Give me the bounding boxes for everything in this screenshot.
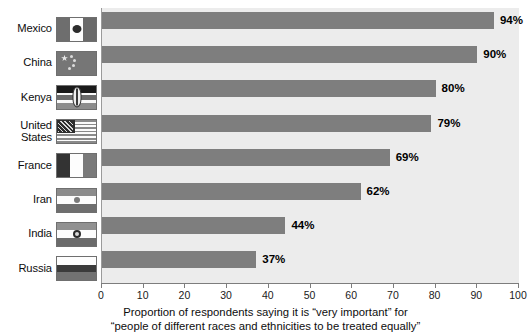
x-axis-tick-label: 90 bbox=[470, 289, 482, 301]
x-axis-tick-label: 10 bbox=[137, 289, 149, 301]
x-axis-tick bbox=[184, 283, 185, 288]
x-axis-caption: Proportion of respondents saying it is “… bbox=[0, 305, 531, 333]
x-axis-tick-label: 50 bbox=[304, 289, 316, 301]
x-axis-tick-label: 20 bbox=[179, 289, 191, 301]
bar-value-label: 62% bbox=[367, 183, 390, 200]
x-axis-tick bbox=[393, 283, 394, 288]
x-axis-tick bbox=[310, 283, 311, 288]
india-flag bbox=[56, 222, 97, 247]
x-axis-tick-label: 80 bbox=[429, 289, 441, 301]
category-label: Mexico bbox=[17, 23, 52, 35]
kenya-flag bbox=[56, 85, 97, 110]
bar bbox=[102, 46, 477, 63]
bar bbox=[102, 251, 256, 268]
bar-value-label: 80% bbox=[442, 80, 465, 97]
x-axis-tick-label: 30 bbox=[220, 289, 232, 301]
bar-value-label: 90% bbox=[483, 46, 506, 63]
x-axis-tick bbox=[143, 283, 144, 288]
category-label: India bbox=[28, 228, 52, 240]
category-label: France bbox=[18, 160, 52, 172]
caption-line-2: “people of different races and ethniciti… bbox=[0, 319, 531, 333]
x-axis-tick-label: 40 bbox=[262, 289, 274, 301]
category-row: United States bbox=[0, 119, 97, 145]
category-row: Iran bbox=[0, 187, 97, 213]
iran-flag bbox=[56, 188, 97, 213]
x-axis-tick-label: 100 bbox=[509, 289, 527, 301]
x-axis-tick bbox=[518, 283, 519, 288]
russia-flag bbox=[56, 256, 97, 281]
bar-value-label: 94% bbox=[500, 12, 523, 29]
category-label: China bbox=[23, 57, 52, 69]
category-row: Russia bbox=[0, 255, 97, 281]
mexico-flag bbox=[56, 17, 97, 42]
category-row: Kenya bbox=[0, 84, 97, 110]
x-axis-tick-label: 0 bbox=[98, 289, 104, 301]
united-states-flag bbox=[56, 119, 97, 144]
category-label: United States bbox=[20, 120, 52, 143]
plot-area: 94%90%80%79%69%62%44%37% bbox=[101, 8, 519, 283]
caption-line-1: Proportion of respondents saying it is “… bbox=[0, 305, 531, 319]
x-axis-tick bbox=[435, 283, 436, 288]
category-label-column: MexicoChinaKenyaUnited StatesFranceIranI… bbox=[0, 8, 101, 283]
category-label: Kenya bbox=[21, 92, 52, 104]
bar bbox=[102, 80, 436, 97]
category-label: Russia bbox=[18, 263, 52, 275]
x-axis-tick bbox=[101, 283, 102, 288]
bar bbox=[102, 149, 390, 166]
bar-value-label: 79% bbox=[437, 115, 460, 132]
bar bbox=[102, 217, 285, 234]
category-row: France bbox=[0, 153, 97, 179]
france-flag bbox=[56, 153, 97, 178]
category-label: Iran bbox=[33, 194, 52, 206]
x-axis-tick-label: 70 bbox=[387, 289, 399, 301]
category-row: Mexico bbox=[0, 16, 97, 42]
china-flag bbox=[56, 51, 97, 76]
bar-value-label: 69% bbox=[396, 149, 419, 166]
x-axis-tick bbox=[351, 283, 352, 288]
x-axis-tick bbox=[476, 283, 477, 288]
bar-value-label: 44% bbox=[291, 217, 314, 234]
bar bbox=[102, 115, 431, 132]
bar-value-label: 37% bbox=[262, 251, 285, 268]
bar-chart: MexicoChinaKenyaUnited StatesFranceIranI… bbox=[0, 0, 531, 334]
x-axis-tick-label: 60 bbox=[345, 289, 357, 301]
bar bbox=[102, 12, 494, 29]
x-axis-tick bbox=[268, 283, 269, 288]
x-axis-tick bbox=[226, 283, 227, 288]
category-row: India bbox=[0, 221, 97, 247]
bar bbox=[102, 183, 361, 200]
category-row: China bbox=[0, 50, 97, 76]
